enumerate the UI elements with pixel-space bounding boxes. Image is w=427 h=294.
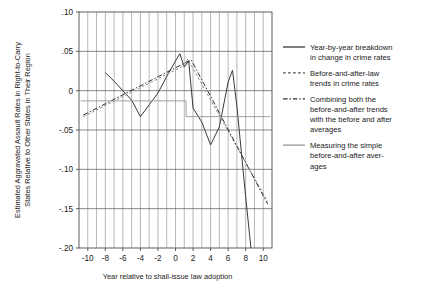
y-axis-tick-labels: .10.050-.05-.10-.15-.20 bbox=[59, 8, 79, 253]
series-line-0 bbox=[105, 54, 254, 294]
svg-text:Before-and-after-law: Before-and-after-law bbox=[310, 69, 380, 78]
svg-text:Year relative to shall-issue l: Year relative to shall-issue law adoptio… bbox=[103, 272, 233, 281]
x-axis-tick-labels: -10-8-6-4-20246810 bbox=[82, 248, 268, 263]
svg-text:-8: -8 bbox=[102, 254, 110, 263]
svg-text:0: 0 bbox=[173, 254, 178, 263]
svg-text:4: 4 bbox=[208, 254, 213, 263]
svg-text:-2: -2 bbox=[154, 254, 162, 263]
svg-text:6: 6 bbox=[226, 254, 231, 263]
chart-figure: -10-8-6-4-20246810 .10.050-.05-.10-.15-.… bbox=[0, 0, 427, 294]
svg-text:-.20: -.20 bbox=[59, 244, 74, 253]
svg-text:in change in crime rates: in change in crime rates bbox=[310, 53, 391, 62]
svg-text:before-and-after aver-: before-and-after aver- bbox=[310, 151, 384, 160]
svg-text:Estimated Aggravated Assault R: Estimated Aggravated Assault Rates in Ri… bbox=[13, 42, 22, 218]
svg-text:before-and-after trends: before-and-after trends bbox=[310, 105, 388, 114]
svg-text:.05: .05 bbox=[62, 47, 74, 56]
svg-text:Year-by-year breakdown: Year-by-year breakdown bbox=[310, 43, 392, 52]
svg-text:Combining both the: Combining both the bbox=[310, 95, 376, 104]
svg-text:.10: .10 bbox=[62, 8, 74, 17]
svg-text:-.10: -.10 bbox=[59, 165, 74, 174]
svg-text:-.05: -.05 bbox=[59, 126, 74, 135]
svg-text:2: 2 bbox=[191, 254, 196, 263]
svg-text:trends in crime rates: trends in crime rates bbox=[310, 79, 379, 88]
svg-text:8: 8 bbox=[243, 254, 248, 263]
svg-text:averages: averages bbox=[310, 125, 341, 134]
x-axis-title: Year relative to shall-issue law adoptio… bbox=[103, 272, 233, 281]
svg-text:with the before and after: with the before and after bbox=[309, 115, 392, 124]
svg-text:-4: -4 bbox=[137, 254, 145, 263]
svg-text:-6: -6 bbox=[119, 254, 127, 263]
y-axis-title: Estimated Aggravated Assault Rates in Ri… bbox=[13, 42, 32, 218]
svg-text:ages: ages bbox=[310, 162, 327, 171]
svg-text:-.15: -.15 bbox=[59, 205, 74, 214]
svg-text:0: 0 bbox=[68, 87, 73, 96]
svg-text:-10: -10 bbox=[82, 254, 94, 263]
svg-text:Measuring the simple: Measuring the simple bbox=[310, 141, 382, 150]
chart-legend: Year-by-year breakdownin change in crime… bbox=[283, 43, 392, 171]
svg-text:States Relative to Other State: States Relative to Other States in Their… bbox=[23, 53, 32, 207]
svg-text:10: 10 bbox=[259, 254, 269, 263]
